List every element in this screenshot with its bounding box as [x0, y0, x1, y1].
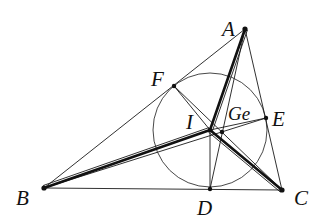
point-d — [208, 187, 212, 191]
geometry-diagram: ABCDEFIGe — [0, 0, 328, 222]
point-i — [208, 128, 212, 132]
point-ge — [220, 130, 224, 134]
label-c: C — [294, 186, 309, 210]
point-a — [242, 26, 247, 31]
label-e: E — [271, 107, 285, 131]
point-c — [279, 187, 284, 192]
label-a: A — [220, 17, 235, 41]
point-f — [172, 84, 176, 88]
bisector-parallel-ic — [208, 132, 280, 192]
label-d: D — [196, 196, 212, 220]
bisector-ib — [44, 130, 210, 188]
bisector-parallel-ib — [43, 128, 209, 186]
point-e — [264, 116, 268, 120]
label-f: F — [150, 67, 164, 91]
point-b — [41, 185, 46, 190]
label-i: I — [185, 110, 194, 134]
bisector-ic — [210, 130, 282, 190]
label-ge: Ge — [228, 103, 250, 124]
side-ab — [44, 29, 245, 188]
side-bc — [44, 188, 282, 190]
label-b: B — [16, 186, 29, 210]
